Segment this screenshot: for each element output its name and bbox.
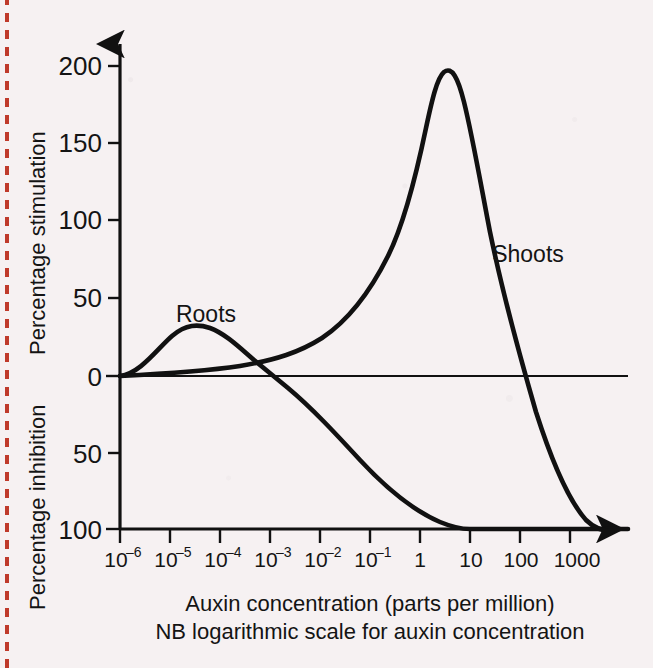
x-axis: 10 –6 10 –5 10 –4 10 –3 10 –2 10 –1 <box>104 529 620 571</box>
x-tick-label-1000: 1000 <box>554 548 601 571</box>
series-label-shoots: Shoots <box>492 241 564 267</box>
x-tick-label-1e-6: 10 –6 <box>104 544 141 571</box>
x-tick-exp-1e-3: –3 <box>276 544 292 560</box>
x-tick-label-1e-1: 10 –1 <box>354 544 391 571</box>
y-tick-label-100: 100 <box>59 205 102 235</box>
x-tick-base-1e-5: 10 <box>154 548 177 571</box>
x-tick-base-1e-6: 10 <box>104 548 127 571</box>
x-tick-exp-1e-4: –4 <box>226 544 242 560</box>
y-tick-label-150: 150 <box>59 128 102 158</box>
x-tick-label-1e-2: 10 –2 <box>304 544 341 571</box>
roots-curve <box>120 326 628 529</box>
x-tick-base-1e-1: 10 <box>354 548 377 571</box>
x-axis-title-line2: NB logarithmic scale for auxin concentra… <box>155 619 584 644</box>
y-tick-label-inhib-100: 100 <box>59 515 102 545</box>
x-tick-label-1e-5: 10 –5 <box>154 544 191 571</box>
y-tick-label-50: 50 <box>73 283 102 313</box>
x-tick-base-1e-3: 10 <box>254 548 277 571</box>
x-tick-label-10: 10 <box>459 548 482 571</box>
y-tick-label-200: 200 <box>59 51 102 81</box>
x-tick-label-1e-3: 10 –3 <box>254 544 291 571</box>
y-tick-label-inhib-50: 50 <box>73 439 102 469</box>
x-tick-label-100: 100 <box>503 548 538 571</box>
x-axis-title-line1: Auxin concentration (parts per million) <box>185 591 554 616</box>
x-tick-base-1e-2: 10 <box>304 548 327 571</box>
x-tick-exp-1e-5: –5 <box>176 544 192 560</box>
x-tick-exp-1e-1: –1 <box>376 544 392 560</box>
y-axis: 200 150 100 50 0 50 100 <box>59 44 120 545</box>
y-axis-title-inhibition: Percentage inhibition <box>25 405 50 610</box>
y-tick-label-0: 0 <box>88 362 102 392</box>
x-tick-label-1e-4: 10 –4 <box>204 544 241 571</box>
y-axis-title-stimulation: Percentage stimulation <box>25 131 50 355</box>
x-tick-exp-1e-6: –6 <box>126 544 142 560</box>
x-tick-exp-1e-2: –2 <box>326 544 342 560</box>
x-tick-base-1e-4: 10 <box>204 548 227 571</box>
series-label-roots: Roots <box>176 301 236 327</box>
x-tick-label-1: 1 <box>414 548 426 571</box>
